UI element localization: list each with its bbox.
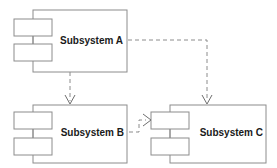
diagram-canvas: Subsystem A Subsystem B Subsystem C bbox=[0, 0, 277, 168]
component-label-subsystem-b: Subsystem B bbox=[61, 127, 124, 138]
component-subsystem-c[interactable]: Subsystem C bbox=[151, 105, 266, 163]
dependency-a-to-b[interactable] bbox=[65, 72, 75, 104]
arrowhead-icon bbox=[143, 114, 151, 126]
component-tab-upper[interactable] bbox=[14, 112, 52, 129]
component-tab-upper[interactable] bbox=[14, 19, 52, 36]
component-tab-lower[interactable] bbox=[151, 138, 189, 155]
component-tab-lower[interactable] bbox=[14, 138, 52, 155]
component-tab-lower[interactable] bbox=[14, 44, 52, 61]
component-label-subsystem-c: Subsystem C bbox=[200, 127, 263, 138]
component-subsystem-a[interactable]: Subsystem A bbox=[14, 10, 127, 72]
uml-component-diagram: Subsystem A Subsystem B Subsystem C bbox=[0, 0, 277, 168]
component-tab-upper[interactable] bbox=[151, 112, 189, 129]
dependency-line[interactable] bbox=[128, 40, 207, 101]
dependency-a-to-c[interactable] bbox=[128, 40, 212, 104]
component-label-subsystem-a: Subsystem A bbox=[60, 35, 123, 46]
dependency-b-to-c[interactable] bbox=[129, 114, 151, 132]
component-subsystem-b[interactable]: Subsystem B bbox=[14, 105, 127, 163]
